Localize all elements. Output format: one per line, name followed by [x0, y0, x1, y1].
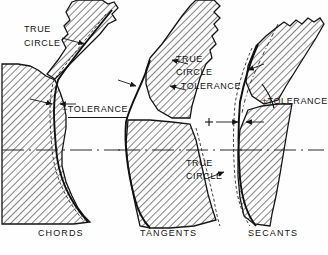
label-true-circle-chords-line1: TRUE	[24, 24, 51, 34]
label-true-circle-tangents-lower-line2: CIRCLE	[186, 171, 223, 181]
underline-tolerance-chords	[68, 117, 127, 118]
label-true-circle-tangents-lower-line1: TRUE	[186, 158, 213, 168]
panel-secants-geometry	[205, 18, 324, 226]
panel-tangents-geometry	[118, 0, 224, 228]
label-true-circle-tangents-line1: TRUE	[176, 54, 203, 64]
label-plus-tolerance-tangents: + TOLERANCE	[172, 81, 241, 91]
leader-left-tangents	[118, 80, 136, 86]
label-tolerance-chords: −TOLERANCE	[62, 104, 128, 114]
label-pm-tolerance-secants: ±TOLERANCE	[262, 96, 328, 106]
label-true-circle-chords-line2: CIRCLE	[24, 38, 61, 48]
label-true-circle-tangents-line2: CIRCLE	[176, 67, 213, 77]
panel-caption-secants: SECANTS	[248, 228, 298, 238]
panel-caption-tangents: TANGENTS	[140, 228, 197, 238]
panel-caption-chords: CHORDS	[38, 228, 84, 238]
